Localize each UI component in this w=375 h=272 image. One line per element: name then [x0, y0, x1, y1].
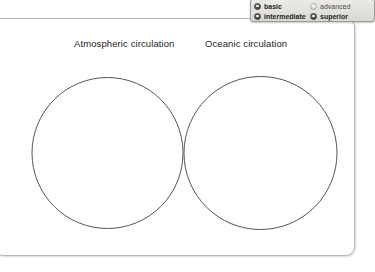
level-option-intermediate[interactable]: intermediate	[254, 11, 310, 21]
radio-selected-icon[interactable]	[310, 13, 317, 20]
content-panel	[0, 18, 355, 256]
radio-selected-icon[interactable]	[254, 13, 261, 20]
level-option-advanced-label: advanced	[320, 2, 350, 11]
difficulty-level-panel[interactable]: basic advanced intermediate superior	[250, 0, 375, 22]
level-option-superior[interactable]: superior	[310, 11, 372, 21]
level-option-advanced[interactable]: advanced	[310, 1, 372, 11]
radio-unselected-icon[interactable]	[310, 3, 317, 10]
level-row-bottom: intermediate superior	[254, 11, 374, 21]
radio-selected-icon[interactable]	[254, 3, 261, 10]
level-option-intermediate-label: intermediate	[264, 12, 306, 21]
level-option-superior-label: superior	[320, 12, 348, 21]
level-option-basic-label: basic	[264, 2, 282, 11]
level-option-basic[interactable]: basic	[254, 1, 310, 11]
level-row-top: basic advanced	[254, 1, 374, 11]
